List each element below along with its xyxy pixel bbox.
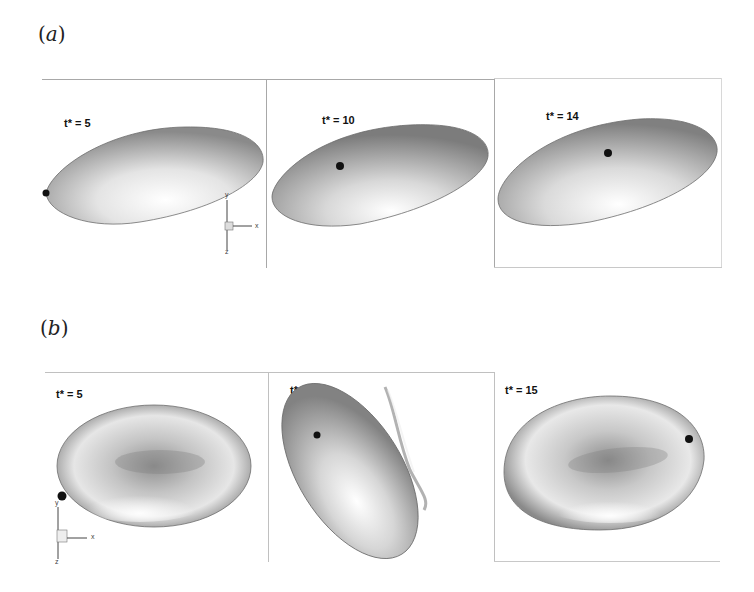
cell-shape-b3 (0, 0, 754, 592)
tracked-point-marker (685, 435, 693, 443)
